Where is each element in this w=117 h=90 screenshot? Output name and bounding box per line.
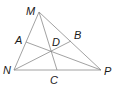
triangle-diagram: M N P A B C D [0, 0, 117, 90]
label-d: D [52, 36, 60, 48]
cevian-ap [26, 42, 101, 70]
label-m: M [26, 5, 36, 17]
label-c: C [50, 74, 58, 86]
label-p: P [104, 65, 112, 77]
label-n: N [3, 64, 11, 76]
label-b: B [74, 29, 81, 41]
label-a: A [14, 34, 22, 46]
